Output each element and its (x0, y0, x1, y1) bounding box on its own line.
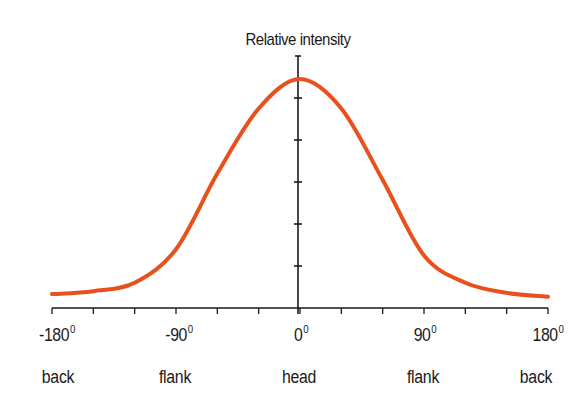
x-tick-value: 180 (533, 325, 558, 345)
degree-symbol: 0 (70, 323, 75, 335)
x-tick-label-0: 00 (294, 325, 308, 346)
x-tick-label-minus-180: -1800 (39, 325, 75, 346)
x-axis (52, 308, 548, 314)
direction-label-back-right: back (520, 367, 552, 388)
x-tick-value: 0 (294, 325, 302, 345)
intensity-curve (52, 79, 548, 297)
x-tick-label-minus-90: -900 (165, 325, 192, 346)
degree-symbol: 0 (303, 323, 308, 335)
x-tick-value: 90 (414, 325, 431, 345)
y-axis (294, 56, 302, 314)
x-tick-label-180: 1800 (533, 325, 564, 346)
direction-label-flank-left: flank (159, 367, 191, 388)
x-tick-value: -180 (39, 325, 69, 345)
degree-symbol: 0 (188, 323, 193, 335)
direction-label-flank-right: flank (407, 367, 439, 388)
x-tick-value: -90 (165, 325, 187, 345)
x-tick-label-90: 900 (414, 325, 437, 346)
direction-label-back-left: back (42, 367, 74, 388)
direction-label-head: head (282, 367, 316, 388)
degree-symbol: 0 (431, 323, 436, 335)
degree-symbol: 0 (559, 323, 564, 335)
chart-title: Relative intensity (36, 30, 560, 50)
